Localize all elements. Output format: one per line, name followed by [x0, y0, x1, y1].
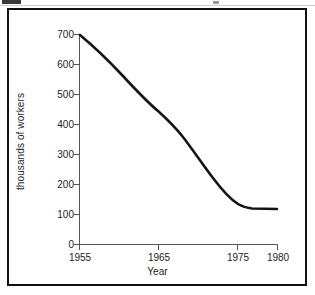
x-tick-label-1975: 1975 [218, 252, 258, 263]
y-tick-label-0: 0 [40, 239, 74, 250]
y-axis-title: thousands of workers [15, 82, 26, 202]
data-line-workers [80, 35, 277, 209]
x-axis-title: Year [0, 266, 315, 277]
figure-page: 700 600 500 400 300 200 100 0 1955 1965 … [0, 0, 315, 295]
y-tick-label-200: 200 [40, 179, 74, 190]
y-tick-label-600: 600 [40, 59, 74, 70]
y-tick-label-500: 500 [40, 89, 74, 100]
y-tick-label-300: 300 [40, 149, 74, 160]
x-tick-label-1980: 1980 [258, 252, 298, 263]
y-tick-label-100: 100 [40, 209, 74, 220]
x-axis-ticks [80, 245, 278, 251]
line-chart [0, 0, 315, 295]
axes-group [74, 34, 278, 250]
x-tick-label-1955: 1955 [60, 252, 100, 263]
y-tick-label-400: 400 [40, 119, 74, 130]
y-tick-label-700: 700 [40, 29, 74, 40]
x-tick-label-1965: 1965 [139, 252, 179, 263]
y-axis-ticks [74, 35, 80, 245]
